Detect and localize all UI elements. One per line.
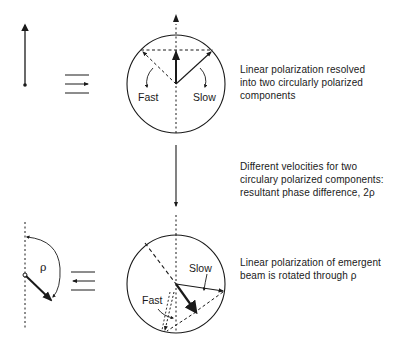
slow-component-vector-bottom <box>176 284 223 291</box>
emergent-linear-polarization: ρ <box>23 222 60 328</box>
slow-pointer-arrow-icon <box>204 274 207 290</box>
slow-label-top: Slow <box>193 91 216 103</box>
fast-component-vector-bottom <box>165 292 174 330</box>
caption-rotation: Linear polarization of emergent beam is … <box>240 256 381 282</box>
caption-line: components <box>240 89 365 102</box>
top-circle-diagram: Fast Slow <box>127 14 225 133</box>
rho-angle-label: ρ <box>40 261 46 274</box>
slow-label-bottom: Slow <box>189 262 212 274</box>
rotated-polarization-vector <box>26 276 51 300</box>
top-axis-arrow-icon <box>173 14 179 22</box>
fast-label-top: Fast <box>138 91 159 103</box>
caption-line: resultant phase difference, 2ρ <box>240 186 384 199</box>
slow-rotation-arrow-icon <box>200 68 206 87</box>
caption-line: Linear polarization of emergent <box>240 256 381 269</box>
caption-line: Different velocities for two <box>240 160 384 173</box>
bottom-circle-diagram: Slow Fast <box>127 234 225 333</box>
equivalence-left-arrow-icon <box>71 272 95 290</box>
fast-rotation-arrow-icon <box>147 68 153 87</box>
fast-component-vector <box>143 52 176 84</box>
caption-resolution: Linear polarization resolved into two ci… <box>240 63 365 102</box>
caption-line: circulary polarized components: <box>240 173 384 186</box>
incident-linear-polarization-vector <box>23 25 27 87</box>
equivalence-right-arrow-icon <box>65 75 89 93</box>
caption-line: into two circularly polarized <box>240 76 365 89</box>
caption-phase-difference: Different velocities for two circulary p… <box>240 160 384 199</box>
caption-line: Linear polarization resolved <box>240 63 365 76</box>
emergent-resultant-vector <box>176 284 196 312</box>
caption-line: beam is rotated through ρ <box>240 269 381 282</box>
fast-label-bottom: Fast <box>142 294 163 306</box>
